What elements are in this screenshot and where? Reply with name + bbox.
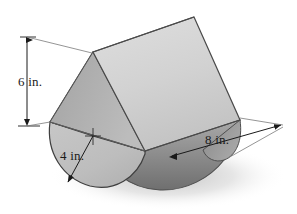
solid-diagram [0,0,297,214]
radius-dimension-label: 4 in. [60,148,84,164]
height-dimension-label: 6 in. [18,74,42,90]
height-arrow-down [24,119,30,126]
height-leader-to-base [27,122,50,126]
length-leader-top [240,118,283,125]
figure-canvas: 6 in. 4 in. 8 in. [0,0,297,214]
height-leader-to-apex [27,37,92,53]
length-dimension-label: 8 in. [205,132,229,148]
